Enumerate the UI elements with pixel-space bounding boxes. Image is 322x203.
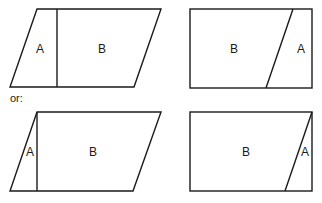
region-label-a: A — [301, 145, 309, 159]
rectangle-outline — [190, 112, 312, 191]
rectangle-top: A B — [190, 9, 312, 88]
rectangle-outline — [190, 9, 312, 88]
region-label-a: A — [36, 42, 44, 56]
region-label-b: B — [89, 145, 97, 159]
rectangle-bottom: A B — [190, 112, 312, 191]
parallelogram-outline — [10, 9, 161, 87]
region-label-a: A — [297, 42, 305, 56]
region-label-b: B — [230, 42, 238, 56]
diagonal-line — [266, 9, 293, 88]
parallelogram-bottom: A B — [10, 112, 161, 191]
or-separator: or: — [10, 92, 23, 104]
region-label-b: B — [242, 145, 250, 159]
diagram-canvas: A B A B or: A B A B — [0, 0, 322, 203]
region-label-a: A — [26, 145, 34, 159]
region-label-b: B — [98, 42, 106, 56]
parallelogram-top: A B — [10, 9, 161, 87]
